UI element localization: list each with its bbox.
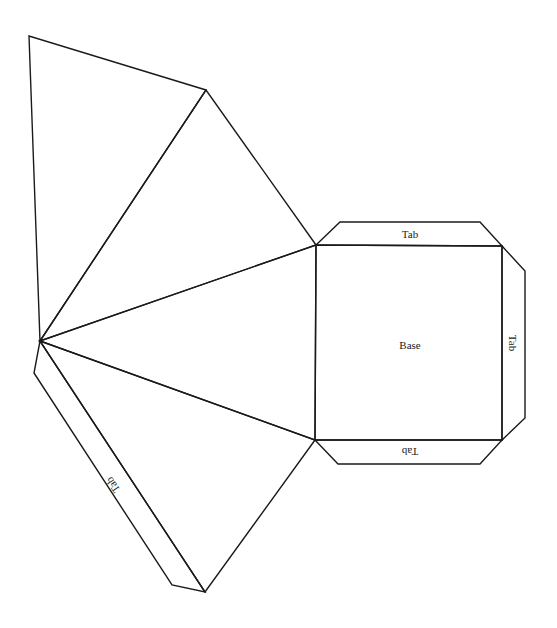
pyramid-net-diagram: Base Tab Tab Tab Tab <box>0 0 557 628</box>
side-tab-label: Tab <box>103 475 122 496</box>
side-glue-tab <box>34 341 205 592</box>
top-tab-label: Tab <box>402 228 419 240</box>
face-triangle-2 <box>40 90 316 341</box>
face-triangle-4 <box>40 341 315 592</box>
base-label: Base <box>399 339 421 351</box>
net-drawing: Base Tab Tab Tab Tab <box>0 0 557 628</box>
bottom-tab-label: Tab <box>401 446 418 458</box>
face-triangle-1 <box>29 36 206 341</box>
face-triangle-3 <box>40 245 316 440</box>
right-tab-label: Tab <box>507 335 519 352</box>
